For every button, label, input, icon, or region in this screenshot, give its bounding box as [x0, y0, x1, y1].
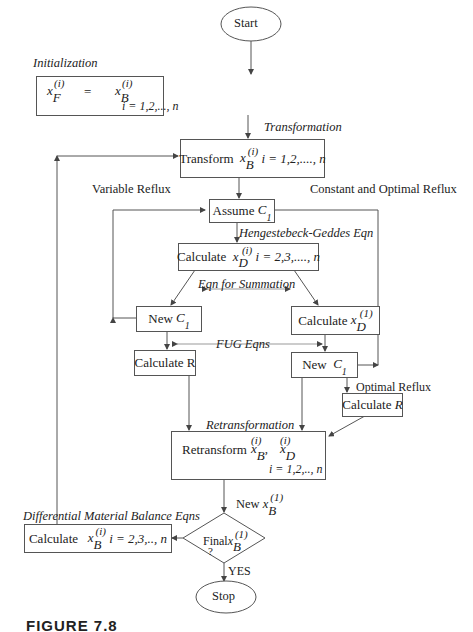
initialization-box: xF(i) = xB(i) i = 1,2,..., n [36, 76, 164, 116]
fug-eqns-label: FUG Eqns [216, 337, 270, 352]
calculate-r-left-box: Calculate R [134, 350, 196, 376]
question-mark: ? [208, 545, 213, 557]
new-c1-left-box: New C1 [136, 306, 202, 332]
transform-box: Transform xB(i) i = 1,2,...., n [180, 139, 325, 178]
calculate-xd-box: Calculate xD(i) i = 2,3,...., n [178, 243, 319, 271]
calculate-r-right-box: Calculate R [342, 393, 403, 417]
start-node: Start [234, 16, 258, 31]
x-f-symbol: xF(i) [47, 83, 61, 103]
retransform-box: Retransform xB,(i) xD(i) i = 1,2,.., n [171, 431, 326, 480]
differential-balance-label: Differential Material Balance Eqns [23, 509, 200, 524]
constant-optimal-reflux-label: Constant and Optimal Reflux [310, 182, 457, 197]
calculate-xd1-box: Calculate xD(1) [291, 306, 380, 335]
new-xb1-label: New xB(1) [236, 493, 283, 516]
assume-c1-box: Assume C1 [209, 199, 275, 223]
initialization-label: Initialization [33, 56, 98, 71]
figure-caption: FIGURE 7.8 [26, 617, 118, 632]
stop-node: Stop [212, 589, 235, 604]
calculate-xb-box: Calculate xB(i) i = 2,3,.., n [24, 524, 172, 553]
variable-reflux-label: Variable Reflux [92, 182, 171, 197]
yes-label: YES [228, 564, 251, 579]
hengestebeck-geddes-label: Hengestebeck-Geddes Eqn [239, 226, 373, 241]
summation-label: Eqn for Summation [198, 277, 295, 292]
transformation-label: Transformation [264, 120, 342, 135]
new-c1-right-box: New C1 [291, 352, 358, 378]
